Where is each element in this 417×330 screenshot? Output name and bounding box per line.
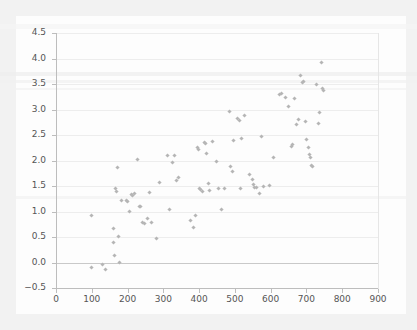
scatter-point <box>200 189 204 193</box>
scatter-point <box>193 213 197 217</box>
y-tick-label: 0.0 <box>32 258 46 267</box>
scatter-point <box>167 207 171 211</box>
x-tick-label: 900 <box>369 295 386 304</box>
scatter-point <box>188 218 192 222</box>
scatter-point <box>142 222 146 226</box>
scatter-point <box>191 226 195 230</box>
scatter-point <box>222 186 226 190</box>
scatter-point <box>154 236 158 240</box>
scatter-point <box>237 118 241 122</box>
x-tick-label: 100 <box>83 295 100 304</box>
scatter-point <box>286 104 290 108</box>
scatter-point <box>308 156 312 160</box>
scatter-point <box>247 173 251 177</box>
scatter-point <box>257 191 261 195</box>
scatter-point <box>171 160 175 164</box>
scatter-point <box>232 138 236 142</box>
x-tick-mark <box>128 289 129 293</box>
x-tick-mark <box>342 289 343 293</box>
scatter-plot-points-area <box>56 33 378 288</box>
scatter-point <box>117 260 121 264</box>
scatter-point <box>292 97 296 101</box>
scatter-point <box>321 89 325 93</box>
scatter-point <box>112 240 116 244</box>
x-axis-line <box>56 288 379 289</box>
x-tick-label: 400 <box>191 295 208 304</box>
scatter-point <box>119 198 123 202</box>
scatter-point <box>172 154 176 158</box>
x-tick-mark <box>235 289 236 293</box>
y-tick-label: 3.0 <box>32 105 46 114</box>
x-tick-mark <box>163 289 164 293</box>
scatter-point <box>149 220 153 224</box>
scatter-point <box>127 209 131 213</box>
x-tick-mark <box>378 289 379 293</box>
scatter-point <box>125 200 129 204</box>
x-tick-label: 700 <box>298 295 315 304</box>
scatter-point <box>316 122 320 126</box>
scatter-point <box>89 265 93 269</box>
scatter-point <box>229 164 233 168</box>
scatter-point <box>219 208 223 212</box>
scatter-point <box>262 184 266 188</box>
y-tick-label: 3.5 <box>32 79 46 88</box>
x-tick-mark <box>92 289 93 293</box>
y-tick-label: 4.5 <box>32 28 46 37</box>
x-tick-mark <box>271 289 272 293</box>
scatter-point <box>294 122 298 126</box>
scatter-point <box>114 189 118 193</box>
scatter-point <box>206 181 210 185</box>
scatter-point <box>89 213 93 217</box>
y-tick-label: 1.0 <box>32 207 46 216</box>
scatter-point <box>217 186 221 190</box>
x-tick-label: 200 <box>119 295 136 304</box>
scatter-point <box>240 136 244 140</box>
scatter-point <box>111 227 115 231</box>
scatter-point <box>208 188 212 192</box>
scatter-point <box>301 79 305 83</box>
scatter-point <box>145 217 149 221</box>
scatter-point <box>243 113 247 117</box>
x-tick-label: 800 <box>334 295 351 304</box>
scatter-plot-screenshot: −0.50.00.51.01.52.02.53.03.54.04.5 01002… <box>0 0 417 330</box>
scatter-point <box>306 145 310 149</box>
scatter-point <box>238 186 242 190</box>
y-tick-label: 2.5 <box>32 130 46 139</box>
scatter-point <box>227 109 231 113</box>
scatter-point <box>305 137 309 141</box>
scatter-point <box>267 183 271 187</box>
scatter-point <box>166 153 170 157</box>
y-tick-label: −0.5 <box>24 283 46 292</box>
scatter-point <box>296 118 300 122</box>
x-tick-mark <box>199 289 200 293</box>
scatter-point <box>100 262 104 266</box>
scatter-point <box>319 60 323 64</box>
scatter-point <box>158 180 162 184</box>
y-tick-label: 2.0 <box>32 156 46 165</box>
scatter-point <box>204 151 208 155</box>
scatter-point <box>215 159 219 163</box>
y-tick-label: 0.5 <box>32 232 46 241</box>
scatter-point <box>291 143 295 147</box>
scatter-point <box>230 170 234 174</box>
scatter-point <box>116 234 120 238</box>
scatter-point <box>115 165 119 169</box>
scatter-point <box>147 191 151 195</box>
scatter-point <box>299 74 303 78</box>
x-tick-mark <box>56 289 57 293</box>
x-tick-label: 300 <box>155 295 172 304</box>
scatter-point <box>112 253 116 257</box>
scatter-point <box>303 120 307 124</box>
x-tick-label: 0 <box>53 295 59 304</box>
scatter-point <box>250 178 254 182</box>
scatter-point <box>204 141 208 145</box>
x-tick-label: 500 <box>226 295 243 304</box>
scatter-point <box>259 134 263 138</box>
scatter-point <box>104 267 108 271</box>
y-tick-label: 4.0 <box>32 54 46 63</box>
scatter-point <box>280 91 284 95</box>
scatter-point <box>283 95 287 99</box>
scatter-point <box>271 156 275 160</box>
scatter-point <box>210 140 214 144</box>
x-tick-label: 600 <box>262 295 279 304</box>
